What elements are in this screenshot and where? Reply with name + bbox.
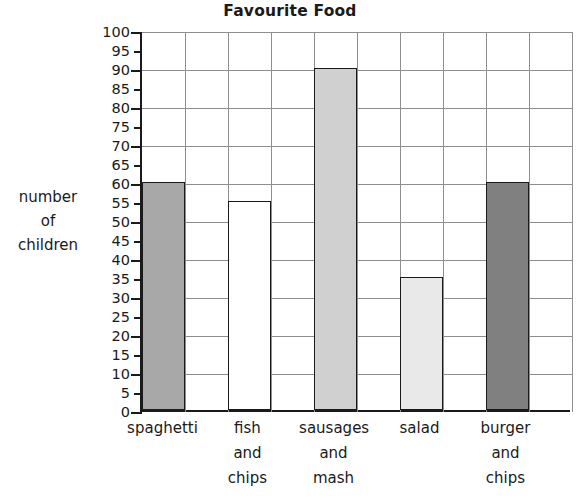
bar [314,68,357,410]
x-axis-label-line: mash [299,466,368,491]
y-axis-tick [131,298,142,300]
y-axis-tick-label: 5 [86,386,130,400]
x-axis-labels: spaghettifishandchipssausagesandmashsala… [140,416,570,502]
y-axis-tick-label: 30 [86,291,130,305]
y-axis-tick-label: 50 [86,215,130,229]
y-axis-tick [131,108,142,110]
x-axis-label: sausagesandmash [299,416,368,491]
bar [486,182,529,410]
y-axis-title-line-2: of [2,209,94,233]
y-axis-tick [134,127,142,129]
y-axis-title-line-1: number [2,185,94,209]
y-axis-title: number of children [2,185,94,257]
x-axis-label: fishandchips [213,416,282,491]
y-axis-tick-label: 40 [86,253,130,267]
chart-title: Favourite Food [0,2,580,20]
y-axis-tick [131,70,142,72]
x-axis-label: burgerandchips [471,416,540,491]
y-axis-tick-label: 75 [86,120,130,134]
x-axis-label: spaghetti [127,416,196,441]
x-axis-label-line: fish [213,416,282,441]
y-axis-tick-label: 0 [86,405,130,419]
plot-area: 1009590858075706560555045403530252015105… [140,32,570,412]
bar [142,182,185,410]
y-axis-tick [134,51,142,53]
x-axis-label-line: spaghetti [127,416,196,441]
y-axis-tick [134,89,142,91]
y-axis-tick [131,336,142,338]
x-axis-label-line: and [471,441,540,466]
x-axis-label: salad [385,416,454,441]
x-axis-label-line: chips [471,466,540,491]
y-axis-tick-label: 55 [86,196,130,210]
y-axis-tick-label: 65 [86,158,130,172]
x-axis-label-line: salad [385,416,454,441]
y-axis-tick [131,184,142,186]
y-axis-tick [131,222,142,224]
y-axis-tick [134,317,142,319]
y-axis-tick-label: 35 [86,272,130,286]
x-axis-label-line: burger [471,416,540,441]
x-axis-label-line: and [213,441,282,466]
x-axis-label-line: and [299,441,368,466]
y-axis-tick-label: 60 [86,177,130,191]
gridline-vertical [271,32,272,412]
y-axis-tick [131,412,142,414]
y-axis-tick-label: 90 [86,63,130,77]
gridline-vertical [572,32,573,412]
y-axis-tick-label: 45 [86,234,130,248]
y-axis-tick-label: 25 [86,310,130,324]
y-axis-tick-label: 80 [86,101,130,115]
y-axis-tick-label: 85 [86,82,130,96]
gridline-vertical [185,32,186,412]
bar [400,277,443,410]
y-axis-tick [134,355,142,357]
y-axis-tick [131,374,142,376]
x-axis-label-line: sausages [299,416,368,441]
y-axis-tick [131,32,142,34]
y-axis-tick-label: 20 [86,329,130,343]
bar-chart: Favourite Food number of children 100959… [0,0,580,503]
gridline-vertical [443,32,444,412]
y-axis-title-line-3: children [2,233,94,257]
y-axis-tick [134,279,142,281]
y-axis-tick-label: 10 [86,367,130,381]
gridline-vertical [529,32,530,412]
y-axis-tick [131,260,142,262]
y-axis-tick-label: 100 [86,25,130,39]
y-axis-tick [134,241,142,243]
y-axis-tick [134,393,142,395]
y-axis-tick [134,165,142,167]
y-axis-tick-label: 70 [86,139,130,153]
bar [228,201,271,410]
y-axis-tick-label: 15 [86,348,130,362]
y-axis-tick-label: 95 [86,44,130,58]
x-axis-label-line: chips [213,466,282,491]
y-axis-tick [131,146,142,148]
y-axis-tick [134,203,142,205]
gridline-vertical [357,32,358,412]
